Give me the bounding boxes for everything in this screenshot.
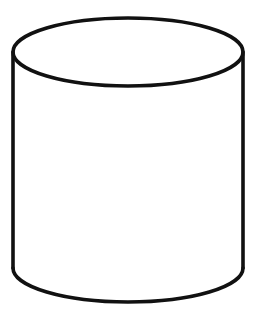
- drawing-canvas: Cylinder Black outline drawing of an upr…: [0, 0, 254, 314]
- cylinder-figure: Cylinder Black outline drawing of an upr…: [0, 0, 254, 314]
